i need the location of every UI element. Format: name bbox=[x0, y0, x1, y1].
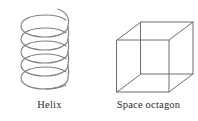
cube-edge-br bbox=[169, 74, 193, 92]
caption-space-octagon: Space octagon bbox=[99, 99, 198, 111]
cube-front-face bbox=[117, 40, 169, 92]
cube-back-face bbox=[141, 22, 193, 74]
caption-helix: Helix bbox=[0, 99, 99, 111]
figure-space-octagon: Space octagon bbox=[99, 0, 198, 121]
figure-helix: Helix bbox=[0, 0, 99, 121]
cube-edge-bl bbox=[117, 74, 141, 92]
figure-panel: Helix Space octagon bbox=[0, 0, 198, 121]
cube-edge-tl bbox=[117, 22, 141, 40]
cube-drawing bbox=[99, 0, 198, 99]
cube-edge-tr bbox=[169, 22, 193, 40]
helix-drawing bbox=[0, 0, 99, 99]
